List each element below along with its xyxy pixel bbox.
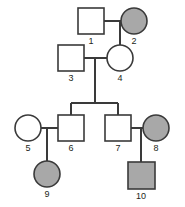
symbol-square-male-10[interactable] bbox=[128, 162, 155, 189]
individual-label-2: 2 bbox=[131, 36, 136, 46]
symbol-circle-female-9[interactable] bbox=[34, 161, 60, 187]
symbol-circle-female-8[interactable] bbox=[143, 115, 169, 141]
symbol-square-male-6[interactable] bbox=[58, 115, 84, 141]
symbol-circle-female-2[interactable] bbox=[121, 8, 147, 34]
symbol-square-male-7[interactable] bbox=[105, 115, 131, 141]
pedigree-chart: 1 2 3 4 5 6 7 bbox=[0, 0, 185, 207]
symbol-square-male-1[interactable] bbox=[78, 8, 104, 34]
individual-label-7: 7 bbox=[115, 143, 120, 153]
individual-label-9: 9 bbox=[44, 189, 49, 199]
individual-label-10: 10 bbox=[136, 191, 146, 201]
individual-label-5: 5 bbox=[25, 143, 30, 153]
individual-label-3: 3 bbox=[68, 73, 73, 83]
individual-label-4: 4 bbox=[117, 73, 122, 83]
individual-label-1: 1 bbox=[88, 36, 93, 46]
symbol-circle-female-5[interactable] bbox=[15, 115, 41, 141]
symbol-square-male-3[interactable] bbox=[58, 45, 84, 71]
symbol-circle-female-4[interactable] bbox=[107, 45, 133, 71]
pedigree-canvas: 1 2 3 4 5 6 7 bbox=[0, 0, 185, 207]
individual-label-6: 6 bbox=[68, 143, 73, 153]
individual-label-8: 8 bbox=[153, 143, 158, 153]
